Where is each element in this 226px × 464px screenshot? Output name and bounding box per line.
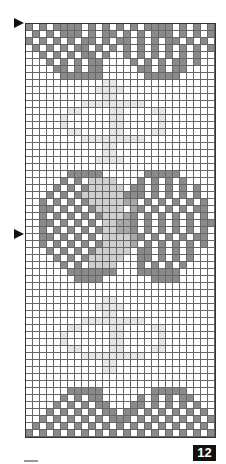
grid-cell <box>82 24 89 31</box>
grid-cell <box>40 129 47 136</box>
grid-cell <box>61 297 68 304</box>
grid-cell <box>173 108 180 115</box>
grid-cell <box>54 199 61 206</box>
grid-cell <box>138 213 145 220</box>
grid-cell <box>26 283 33 290</box>
grid-cell <box>110 24 117 31</box>
grid-cell <box>26 115 33 122</box>
grid-cell <box>180 213 187 220</box>
grid-cell <box>68 220 75 227</box>
grid-cell <box>54 416 61 423</box>
grid-cell <box>33 262 40 269</box>
grid-cell <box>82 73 89 80</box>
grid-cell <box>159 402 166 409</box>
grid-cell <box>75 360 82 367</box>
grid-cell <box>145 325 152 332</box>
grid-cell <box>103 45 110 52</box>
grid-cell <box>54 94 61 101</box>
grid-cell <box>131 402 138 409</box>
grid-cell <box>40 402 47 409</box>
grid-cell <box>26 318 33 325</box>
grid-cell <box>166 178 173 185</box>
grid-cell <box>187 290 194 297</box>
grid-cell <box>124 150 131 157</box>
grid-cell <box>187 31 194 38</box>
grid-cell <box>131 178 138 185</box>
grid-cell <box>201 122 208 129</box>
grid-cell <box>96 388 103 395</box>
grid-cell <box>131 409 138 416</box>
grid-cell <box>96 374 103 381</box>
grid-cell <box>75 94 82 101</box>
grid-cell <box>26 73 33 80</box>
grid-cell <box>96 129 103 136</box>
grid-cell <box>54 248 61 255</box>
grid-cell <box>75 31 82 38</box>
grid-cell <box>82 59 89 66</box>
grid-cell <box>187 73 194 80</box>
grid-cell <box>61 115 68 122</box>
grid-cell <box>75 143 82 150</box>
grid-cell <box>82 269 89 276</box>
grid-cell <box>89 52 96 59</box>
grid-cell <box>145 52 152 59</box>
grid-cell <box>152 248 159 255</box>
grid-cell <box>96 101 103 108</box>
grid-cell <box>145 164 152 171</box>
grid-cell <box>166 108 173 115</box>
pattern-chart-grid <box>25 23 216 438</box>
grid-cell <box>68 290 75 297</box>
grid-cell <box>33 381 40 388</box>
grid-cell <box>75 248 82 255</box>
grid-cell <box>201 248 208 255</box>
grid-cell <box>124 276 131 283</box>
grid-cell <box>110 360 117 367</box>
grid-cell <box>180 192 187 199</box>
grid-cell <box>40 199 47 206</box>
grid-cell <box>117 374 124 381</box>
grid-cell <box>145 346 152 353</box>
grid-cell <box>201 206 208 213</box>
grid-cell <box>152 360 159 367</box>
grid-cell <box>117 101 124 108</box>
grid-cell <box>103 234 110 241</box>
grid-cell <box>138 101 145 108</box>
grid-cell <box>82 297 89 304</box>
grid-cell <box>187 150 194 157</box>
grid-cell <box>68 227 75 234</box>
grid-cell <box>180 325 187 332</box>
grid-cell <box>166 87 173 94</box>
grid-cell <box>194 73 201 80</box>
grid-cell <box>159 374 166 381</box>
grid-cell <box>194 52 201 59</box>
grid-cell <box>26 164 33 171</box>
grid-cell <box>110 185 117 192</box>
grid-cell <box>33 290 40 297</box>
grid-cell <box>47 185 54 192</box>
grid-cell <box>68 423 75 430</box>
grid-cell <box>166 52 173 59</box>
grid-cell <box>26 339 33 346</box>
grid-cell <box>131 73 138 80</box>
grid-cell <box>166 402 173 409</box>
grid-cell <box>145 395 152 402</box>
grid-cell <box>187 157 194 164</box>
grid-cell <box>152 276 159 283</box>
grid-cell <box>82 353 89 360</box>
grid-cell <box>166 248 173 255</box>
grid-cell <box>110 227 117 234</box>
grid-cell <box>187 311 194 318</box>
grid-cell <box>159 297 166 304</box>
grid-cell <box>145 206 152 213</box>
grid-cell <box>68 241 75 248</box>
grid-cell <box>103 87 110 94</box>
grid-cell <box>124 24 131 31</box>
grid-cell <box>89 332 96 339</box>
grid-cell <box>89 360 96 367</box>
grid-cell <box>26 374 33 381</box>
grid-cell <box>208 262 215 269</box>
grid-cell <box>110 311 117 318</box>
grid-cell <box>208 248 215 255</box>
grid-cell <box>75 164 82 171</box>
grid-cell <box>180 199 187 206</box>
